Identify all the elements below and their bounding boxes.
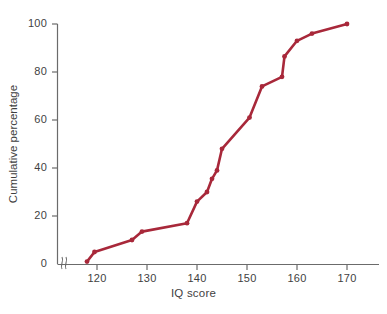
x-tick-label: 150 — [227, 272, 267, 284]
data-series-cumulative — [85, 22, 350, 264]
data-point — [215, 168, 220, 173]
data-point — [310, 31, 315, 36]
data-point — [185, 221, 190, 226]
data-point — [280, 74, 285, 79]
data-point — [282, 54, 287, 59]
data-point — [205, 190, 210, 195]
series-markers — [85, 22, 350, 264]
y-axis-title: Cumulative percentage — [7, 85, 19, 203]
y-tick-label: 40 — [0, 161, 47, 173]
chart-canvas: Cumulative percentage — [0, 0, 387, 314]
y-tick-label: 20 — [0, 209, 47, 221]
data-point — [345, 22, 350, 27]
x-tick-label: 120 — [77, 272, 117, 284]
x-tick-label: 140 — [177, 272, 217, 284]
y-axis-ticks — [52, 24, 58, 216]
cumulative-percentage-chart: Cumulative percentage 020406080100 12013… — [0, 0, 387, 314]
data-point — [295, 38, 300, 43]
x-axis-ticks — [97, 265, 347, 271]
data-point — [92, 250, 97, 255]
data-point — [85, 259, 90, 264]
data-point — [140, 229, 145, 234]
y-tick-label: 60 — [0, 113, 47, 125]
data-point — [130, 238, 135, 243]
axis-break-symbol — [61, 257, 66, 269]
y-tick-label: 80 — [0, 65, 47, 77]
y-tick-label: 0 — [0, 257, 47, 269]
y-tick-label: 100 — [0, 17, 47, 29]
axes-group — [52, 24, 379, 270]
data-point — [220, 146, 225, 151]
x-axis-title: IQ score — [0, 287, 387, 299]
data-point — [260, 84, 265, 89]
data-point — [210, 176, 215, 181]
x-tick-label: 130 — [127, 272, 167, 284]
data-point — [247, 115, 252, 120]
data-point — [195, 199, 200, 204]
series-line — [87, 24, 347, 262]
x-tick-label: 160 — [277, 272, 317, 284]
x-tick-label: 170 — [327, 272, 367, 284]
